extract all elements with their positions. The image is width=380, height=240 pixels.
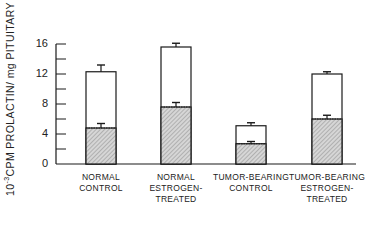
y-tick-label: 8 bbox=[28, 97, 48, 109]
bar-hatched bbox=[86, 128, 116, 164]
bar-hatched bbox=[312, 119, 342, 164]
y-tick-label: 4 bbox=[28, 127, 48, 139]
bars bbox=[86, 43, 342, 164]
y-tick-label: 16 bbox=[28, 37, 48, 49]
bar-hatched bbox=[161, 107, 191, 164]
y-tick-label: 12 bbox=[28, 67, 48, 79]
bar-hatched bbox=[236, 144, 266, 164]
bar-group bbox=[312, 72, 342, 164]
x-category-label: TUMOR-BEARINGESTROGEN-TREATED bbox=[282, 172, 372, 205]
y-tick-label: 0 bbox=[28, 157, 48, 169]
bar-group bbox=[161, 43, 191, 164]
bar-group bbox=[236, 123, 266, 164]
bar-group bbox=[86, 65, 116, 164]
